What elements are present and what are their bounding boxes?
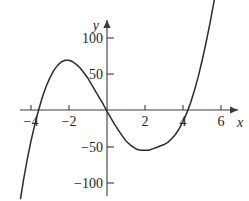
x-axis <box>20 106 238 113</box>
x-tick-marks <box>31 105 221 110</box>
x-tick-label-minus2: −2 <box>62 114 77 129</box>
y-tick-labels: 100 50 −50 −100 <box>74 31 103 191</box>
x-axis-label: x <box>236 115 244 130</box>
graph-figure: −4 −2 2 4 6 100 50 −50 −100 y x <box>0 0 249 201</box>
y-tick-label-minus100: −100 <box>74 176 103 191</box>
cubic-curve <box>21 0 223 199</box>
cubic-graph-svg: −4 −2 2 4 6 100 50 −50 −100 y x <box>0 0 249 201</box>
x-tick-label-2: 2 <box>142 114 149 129</box>
top-text-fragment <box>8 0 208 8</box>
x-axis-arrowhead <box>230 106 238 113</box>
x-tick-label-6: 6 <box>218 114 225 129</box>
y-tick-label-minus50: −50 <box>81 140 103 155</box>
y-tick-label-100: 100 <box>82 31 103 46</box>
y-tick-label-50: 50 <box>89 67 103 82</box>
y-axis-arrowhead <box>103 20 110 28</box>
y-axis-label: y <box>91 18 100 33</box>
x-tick-labels: −4 −2 2 4 6 <box>24 114 225 129</box>
